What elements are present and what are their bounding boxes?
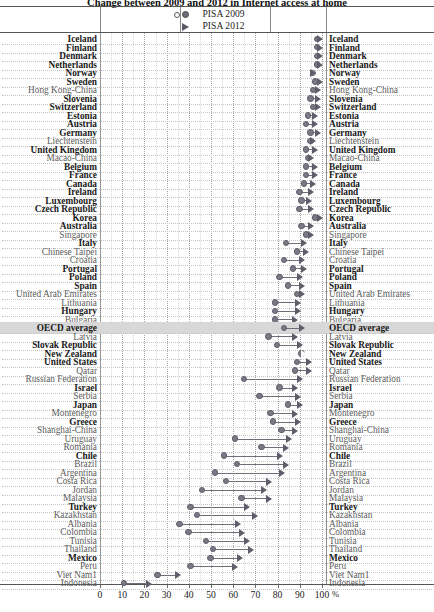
- change-connector: [237, 439, 288, 440]
- change-connector: [217, 473, 282, 474]
- axis-tick-50: [211, 585, 212, 588]
- change-connector: [246, 379, 300, 380]
- change-connector: [200, 515, 256, 516]
- axis-tick-100: [322, 585, 323, 588]
- legend-divider-inner-right: [270, 7, 271, 32]
- legend-item-pisa-2012: PISA 2012: [174, 20, 245, 32]
- open-triangle-icon: [174, 23, 180, 31]
- legend-item-pisa-2009: PISA 2009: [174, 8, 245, 20]
- change-connector: [213, 558, 240, 559]
- change-connector: [193, 507, 247, 508]
- axis-tick-90: [300, 585, 301, 588]
- axis-tick-40: [189, 585, 190, 588]
- plot-area: IcelandIcelandFinlandFinlandDenmarkDenma…: [0, 32, 434, 585]
- axis-tick-80: [278, 585, 279, 588]
- legend-label-2012: PISA 2012: [202, 21, 244, 31]
- change-connector: [215, 549, 251, 550]
- legend-glyph-group-2009: [174, 8, 200, 20]
- axis-tick-30: [167, 585, 168, 588]
- legend-divider-right: [326, 7, 327, 32]
- axis-tick-70: [255, 585, 256, 588]
- axis-tick-0: [100, 585, 101, 588]
- change-connector: [226, 456, 280, 457]
- change-connector: [204, 490, 264, 491]
- open-circle-icon: [174, 12, 180, 18]
- change-connector: [193, 566, 235, 567]
- axis-tick-20: [144, 585, 145, 588]
- filled-triangle-icon: [182, 23, 189, 31]
- axis-unit-label: %: [332, 589, 339, 599]
- change-connector: [191, 532, 242, 533]
- legend: PISA 2009 PISA 2012: [0, 6, 434, 32]
- legend-divider-left: [100, 7, 101, 32]
- change-connector: [229, 481, 269, 482]
- axis-tick-60: [233, 585, 234, 588]
- change-connector: [262, 396, 298, 397]
- change-connector: [209, 541, 247, 542]
- change-connector: [182, 524, 238, 525]
- axis-tick-10: [122, 585, 123, 588]
- legend-label-2009: PISA 2009: [202, 9, 244, 19]
- legend-glyph-group-2012: [174, 20, 200, 32]
- filled-circle-icon: [182, 11, 189, 18]
- x-axis: 0102030405060708090100 %: [0, 585, 434, 612]
- change-connector: [240, 464, 287, 465]
